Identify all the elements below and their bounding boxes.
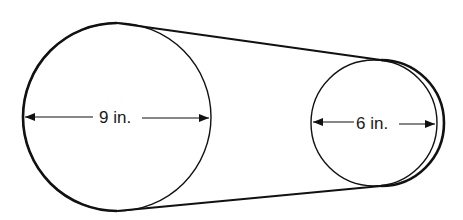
belt-bottom	[117, 186, 381, 211]
belt-wrap-small	[381, 60, 444, 186]
belt-pulley-diagram: 9 in. 6 in.	[0, 0, 463, 220]
belt-top	[117, 23, 381, 60]
large-pulley-label: 9 in.	[99, 108, 131, 127]
small-pulley-label: 6 in.	[356, 114, 388, 133]
